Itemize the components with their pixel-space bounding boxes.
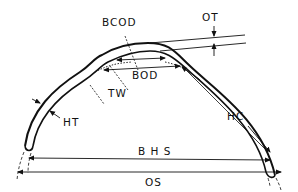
- left-dashed-extension-inner: [28, 153, 31, 173]
- hc-leader: [182, 66, 268, 152]
- label-hc: HC: [227, 110, 244, 122]
- ot-upper-line: [150, 35, 245, 43]
- bcod-dimension: [117, 58, 165, 60]
- left-end-cap: [25, 146, 33, 151]
- label-os: OS: [145, 176, 162, 188]
- ht-arrow-inner: [50, 111, 60, 118]
- label-bod: BOD: [132, 69, 158, 81]
- left-dashed-extension: [17, 152, 24, 180]
- ht-arrow-outer: [32, 99, 40, 103]
- tw-leader-left: [90, 85, 104, 104]
- label-bcod: BCOD: [102, 16, 137, 28]
- ot-lower-line: [160, 43, 246, 51]
- right-dashed-extension: [276, 178, 281, 190]
- label-ot: OT: [202, 11, 219, 23]
- label-ht: HT: [63, 116, 79, 128]
- bhs-dimension: [29, 158, 270, 160]
- right-dashed-extension-inner: [268, 178, 270, 187]
- hc-arrow: [248, 126, 270, 152]
- label-bhs: B H S: [138, 145, 171, 157]
- label-tw: TW: [107, 87, 127, 99]
- arch-measurement-diagram: BCOD OT BOD TW HT HC B H S OS: [0, 0, 298, 192]
